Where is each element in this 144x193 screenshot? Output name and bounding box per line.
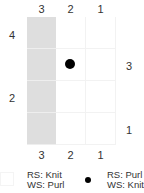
column-number-bottom: 1 [86,149,115,161]
legend-label: WS: Purl [27,180,64,190]
column-number-bottom: 3 [27,149,56,161]
grid-cell [56,81,86,113]
grid-cell [86,81,116,113]
dot-icon [85,177,91,183]
column-number-bottom: 2 [56,149,85,161]
grid-cell [86,17,116,49]
grid-cell [86,49,116,81]
stitch-grid [27,17,116,145]
column-number-top: 2 [56,3,85,15]
grid-cell [56,113,86,145]
grid-cell-shaded [27,49,56,81]
row-number-left: 4 [6,29,18,41]
column-number-top: 1 [86,3,115,15]
column-number-top: 3 [27,3,56,15]
grid-cell [86,113,116,145]
row-number-right: 3 [123,60,135,72]
grid-cell [56,17,86,49]
grid-cell-shaded [27,81,56,113]
legend-label: WS: Knit [107,180,144,190]
grid-cell-shaded [27,17,56,49]
legend: RS: Knit WS: Purl RS: Purl WS: Knit [0,169,144,193]
grid-cell-shaded [27,113,56,145]
grid-cell-purl [56,49,86,81]
row-number-right: 1 [123,124,135,136]
row-number-left: 2 [6,92,18,104]
purl-dot-icon [65,59,75,69]
empty-square-icon [0,172,14,186]
